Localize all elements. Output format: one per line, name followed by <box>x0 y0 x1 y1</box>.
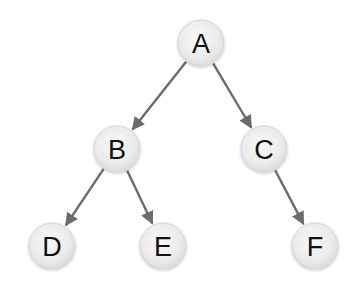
node-label: C <box>254 135 274 165</box>
tree-node-a: A <box>178 20 224 66</box>
node-label: D <box>42 232 62 262</box>
edge-arrow-b-to-e <box>127 171 152 224</box>
tree-diagram: ABCDEF <box>0 0 358 286</box>
tree-node-e: E <box>140 223 186 269</box>
tree-node-d: D <box>29 223 75 269</box>
node-label: F <box>307 232 324 262</box>
node-label: E <box>154 232 172 262</box>
nodes-layer: ABCDEF <box>29 20 338 269</box>
edge-arrow-b-to-d <box>66 169 104 225</box>
node-label: A <box>192 29 210 59</box>
edge-arrow-c-to-f <box>275 170 303 224</box>
edge-arrow-a-to-c <box>213 64 251 128</box>
tree-node-b: B <box>94 126 140 172</box>
node-label: B <box>108 135 126 165</box>
tree-node-f: F <box>292 223 338 269</box>
tree-node-c: C <box>241 126 287 172</box>
edge-arrow-a-to-b <box>133 62 187 130</box>
